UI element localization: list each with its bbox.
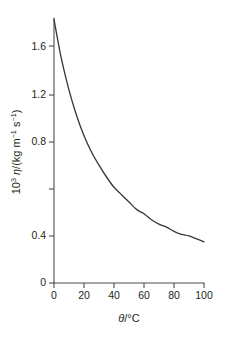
x-tick-label: 20 xyxy=(78,289,90,301)
y-tick-marks xyxy=(49,46,54,283)
x-tick-labels: 0 20 40 60 80 100 xyxy=(51,289,213,301)
x-tick-marks xyxy=(54,283,204,288)
y-tick-label: 1.6 xyxy=(31,40,46,52)
y-tick-labels: 0 0.4 0.8 1.2 1.6 xyxy=(31,40,46,288)
y-tick-label: 0.4 xyxy=(31,229,46,241)
y-tick-label: 1.2 xyxy=(31,88,46,100)
x-tick-label: 100 xyxy=(195,289,213,301)
x-axis-title: θ/°C xyxy=(118,312,139,324)
x-tick-label: 60 xyxy=(138,289,150,301)
viscosity-curve xyxy=(54,19,204,241)
x-tick-label: 0 xyxy=(51,289,57,301)
x-tick-label: 80 xyxy=(168,289,180,301)
y-tick-label: 0.8 xyxy=(31,135,46,147)
plot-canvas: 0 20 40 60 80 100 0 0.4 0.8 1.2 1.6 103 … xyxy=(0,0,232,339)
viscosity-chart-figure: 0 20 40 60 80 100 0 0.4 0.8 1.2 1.6 103 … xyxy=(0,0,232,339)
y-axis-title: 103 η/(kg m−1 s−1) xyxy=(9,110,22,195)
y-tick-label: 0 xyxy=(40,276,46,288)
x-tick-label: 40 xyxy=(108,289,120,301)
